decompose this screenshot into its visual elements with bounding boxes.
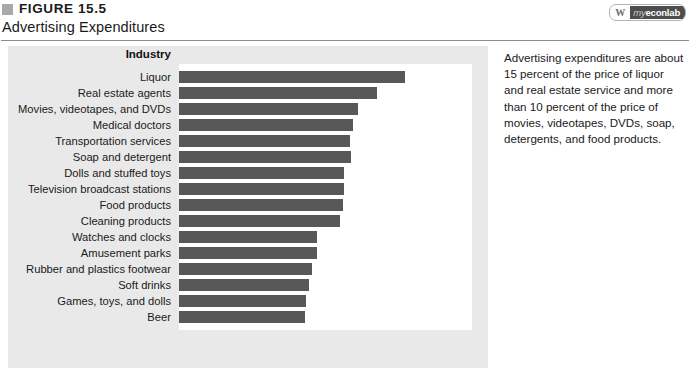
bar-category-label: Games, toys, and dolls (8, 295, 171, 307)
bar-row: Movies, videotapes, and DVDs (8, 102, 480, 118)
bar-category-label: Movies, videotapes, and DVDs (8, 103, 171, 115)
bar (179, 103, 358, 115)
chart-panel: Industry LiquorReal estate agentsMovies,… (8, 46, 488, 368)
bar-row: Transportation services (8, 134, 480, 150)
bar-row: Real estate agents (8, 86, 480, 102)
bar (179, 87, 377, 99)
bar-category-label: Medical doctors (8, 119, 171, 131)
bar-category-label: Transportation services (8, 135, 171, 147)
bar (179, 263, 312, 275)
bar-category-label: Soap and detergent (8, 151, 171, 163)
bar-row: Soft drinks (8, 278, 480, 294)
bar-row: Watches and clocks (8, 230, 480, 246)
bar (179, 231, 317, 243)
bar-row: Soap and detergent (8, 150, 480, 166)
figure-number: FIGURE 15.5 (19, 1, 107, 16)
gray-square-icon (2, 4, 13, 15)
bar (179, 247, 317, 259)
bar-row: Medical doctors (8, 118, 480, 134)
bar (179, 167, 344, 179)
bar-category-label: Cleaning products (8, 215, 171, 227)
logo-lab-text: lab (667, 7, 680, 18)
w-monogram-icon: W (610, 6, 630, 19)
figure-header: FIGURE 15.5 Advertising Expenditures (0, 0, 690, 44)
bar-category-label: Amusement parks (8, 247, 171, 259)
bar-row: Beer (8, 310, 480, 326)
bar (179, 135, 350, 147)
bar-category-label: Liquor (8, 71, 171, 83)
logo-econ-text: econ (645, 7, 666, 18)
bar-category-label: Rubber and plastics footwear (8, 263, 171, 275)
logo-my-text: my (633, 7, 645, 18)
bar (179, 151, 351, 163)
bar-category-label: Television broadcast stations (8, 183, 171, 195)
bar (179, 183, 344, 195)
bar (179, 71, 405, 83)
myeconlab-logo-text: myeconlab (630, 6, 685, 19)
bar-category-label: Dolls and stuffed toys (8, 167, 171, 179)
bar (179, 279, 309, 291)
bar-row: Dolls and stuffed toys (8, 166, 480, 182)
bar-row: Food products (8, 198, 480, 214)
bar-category-label: Real estate agents (8, 87, 171, 99)
bar-category-label: Watches and clocks (8, 231, 171, 243)
bar-row: Rubber and plastics footwear (8, 262, 480, 278)
bar-category-label: Beer (8, 311, 171, 323)
bar-row: Television broadcast stations (8, 182, 480, 198)
bar (179, 295, 306, 307)
bar (179, 199, 343, 211)
bar-category-label: Food products (8, 199, 171, 211)
header-divider (1, 40, 689, 41)
bar-row: Liquor (8, 70, 480, 86)
bar (179, 311, 305, 323)
bar (179, 119, 353, 131)
figure-caption: Advertising expenditures are about 15 pe… (504, 50, 686, 147)
bar-row: Games, toys, and dolls (8, 294, 480, 310)
bar-row: Cleaning products (8, 214, 480, 230)
bar-category-label: Soft drinks (8, 279, 171, 291)
page-title: Advertising Expenditures (2, 19, 165, 35)
category-axis-title: Industry (8, 48, 171, 60)
bar (179, 215, 340, 227)
myeconlab-logo[interactable]: W myeconlab (609, 4, 686, 21)
bar-row: Amusement parks (8, 246, 480, 262)
